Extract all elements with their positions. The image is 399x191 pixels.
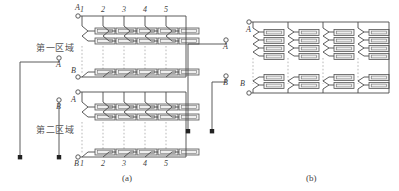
resistor-b-bot-c3-row2	[334, 83, 354, 89]
resistor-b-c3-row3	[334, 46, 354, 52]
resistor-b-bot-c2-row2	[299, 83, 319, 89]
resistor-bottom-c5-r1	[179, 69, 199, 75]
terminal-a-panel-b-bus	[247, 20, 251, 24]
schematic-drawing	[0, 0, 399, 191]
resistor-b-c2-row3	[299, 46, 319, 52]
resistor-b-c4-row4	[369, 54, 389, 60]
resistor-b-c4-row3	[369, 46, 389, 52]
resistor-b-bot-c4-row1	[369, 75, 389, 81]
ground-node-a-panel-a	[18, 155, 22, 159]
terminal-a-region2-in	[76, 90, 80, 94]
resistor-b-bot-c2-row1	[299, 75, 319, 81]
zig-c1-r1	[82, 16, 88, 41]
resistor-r2-c5-row2	[179, 114, 199, 120]
cells-panel-b-top	[253, 22, 389, 60]
resistor-bottom-c5-r2	[179, 149, 199, 155]
cells-region-1	[82, 16, 199, 44]
cells-region-2-bottom	[82, 149, 199, 157]
zig-c1-r2	[82, 92, 88, 117]
resistor-b-c1-row3	[264, 46, 284, 52]
terminal-b-panel-b-bus	[247, 91, 251, 95]
resistor-r2-c5-row1	[179, 104, 199, 110]
ground-node-a-panel-b	[186, 129, 190, 133]
cells-region-2	[82, 92, 199, 120]
resistor-b-bot-c3-row1	[334, 75, 354, 81]
cells-region-1-bottom	[82, 69, 199, 77]
resistor-b-c4-row2	[369, 38, 389, 44]
resistor-b-c1-row1	[264, 30, 284, 36]
resistor-b-c2-row1	[299, 30, 319, 36]
resistor-b-c3-row2	[334, 38, 354, 44]
terminal-a-region1-in	[76, 14, 80, 18]
resistor-b-c2-row2	[299, 38, 319, 44]
external-terminal-a-panel-b	[224, 38, 228, 42]
lead-wire-a-panel-a	[20, 60, 59, 157]
resistor-b-c1-row2	[264, 38, 284, 44]
resistor-b-bot-c1-row1	[264, 75, 284, 81]
resistor-b-c3-row4	[334, 54, 354, 60]
ground-node-b-panel-b	[210, 129, 214, 133]
panel-b	[186, 20, 389, 134]
resistor-c5-row1	[179, 28, 199, 34]
resistor-c5-row2	[179, 38, 199, 44]
resistor-b-c3-row1	[334, 30, 354, 36]
figure-canvas: 1 2 3 4 5 1 2 3 4 5 A B A B A B 第一区域 第二区…	[0, 0, 399, 191]
external-terminal-a-panel-a	[57, 56, 61, 60]
resistor-b-c1-row4	[264, 54, 284, 60]
resistor-b-bot-c4-row2	[369, 83, 389, 89]
resistor-b-c4-row1	[369, 30, 389, 36]
panel-a	[18, 14, 199, 160]
terminal-b-region1-out	[76, 75, 80, 79]
lead-wire-b-panel-b	[212, 78, 226, 131]
cells-panel-b-bottom	[253, 75, 389, 94]
external-terminal-b-panel-a	[57, 98, 61, 102]
resistor-b-c2-row4	[299, 54, 319, 60]
resistor-b-bot-c1-row2	[264, 83, 284, 89]
external-terminal-b-panel-b	[224, 74, 228, 78]
ground-node-b-panel-a	[57, 155, 61, 159]
terminal-b-region2-out	[76, 155, 80, 159]
